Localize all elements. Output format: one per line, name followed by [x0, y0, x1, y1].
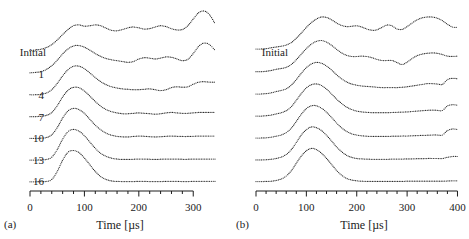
figure-stacked-waveforms: Initial147101316 0100200300 Time [µs] (a…: [0, 0, 469, 239]
trace-s2: [255, 40, 457, 72]
x-tick-label: 100: [298, 202, 315, 213]
x-tick-label: 400: [449, 202, 466, 213]
panel-a: Initial147101316 0100200300 Time [µs] (a…: [0, 0, 234, 239]
panel-b: Initial 0100200300400 Time [µs] (b): [234, 0, 469, 239]
x-tick-label: 300: [399, 202, 416, 213]
trace-s6: [255, 126, 457, 160]
trace-Initial: [29, 10, 215, 51]
trace-s4: [255, 83, 457, 116]
x-tick-label: 300: [185, 202, 202, 213]
trace-Initial: [255, 16, 456, 49]
trace-4: [29, 65, 215, 95]
trace-13: [29, 129, 215, 161]
trace-16: [29, 150, 215, 183]
trace-1: [29, 42, 215, 73]
trace-s7: [255, 148, 457, 182]
panel-a-axis-title: Time [µs]: [96, 219, 143, 231]
panel-b-traces: [234, 0, 469, 196]
x-tick-label: 100: [76, 202, 93, 213]
panel-b-plot-area: [234, 0, 469, 196]
trace-10: [29, 108, 214, 139]
x-tick-label: 200: [348, 202, 365, 213]
x-tick-label: 200: [131, 202, 148, 213]
panel-b-axis-title: Time [µs]: [340, 219, 387, 231]
trace-s3: [255, 62, 457, 95]
x-tick-label: 0: [253, 202, 259, 213]
panel-a-plot-area: [0, 0, 234, 196]
panel-a-traces: [0, 0, 234, 196]
x-tick-label: 0: [27, 202, 33, 213]
panel-a-tag: (a): [4, 219, 16, 230]
trace-7: [29, 86, 214, 117]
panel-b-tag: (b): [236, 219, 249, 230]
